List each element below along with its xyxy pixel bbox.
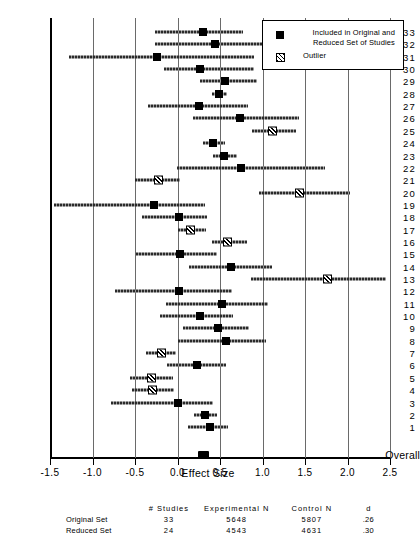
confidence-interval-line — [164, 68, 254, 71]
effect-size-marker — [175, 213, 183, 221]
effect-size-marker — [221, 77, 229, 85]
summary-row-name: Original Set — [60, 514, 142, 525]
row-label-9: 9 — [372, 323, 416, 334]
gridline-1 — [263, 18, 264, 458]
outlier-marker — [148, 386, 157, 395]
effect-size-marker — [206, 423, 214, 431]
row-label-15: 15 — [372, 249, 416, 260]
x-tick-mark-0 — [178, 459, 179, 465]
summary-row-studies: 24 — [142, 525, 197, 536]
effect-size-marker — [196, 65, 204, 73]
row-label-7: 7 — [372, 348, 416, 359]
confidence-interval-line — [177, 166, 326, 169]
legend-marker-included-icon — [276, 31, 284, 39]
row-label-25: 25 — [372, 125, 416, 136]
effect-size-marker — [150, 201, 158, 209]
effect-size-marker — [153, 53, 161, 61]
row-label-17: 17 — [372, 224, 416, 235]
row-label-26: 26 — [372, 113, 416, 124]
row-label-12: 12 — [372, 286, 416, 297]
x-tick-mark--1.5 — [50, 459, 51, 465]
row-label-18: 18 — [372, 212, 416, 223]
summary-header-experimental-n: Experimental N — [196, 503, 277, 514]
gridline-2 — [348, 18, 349, 458]
x-tick-mark-1.5 — [305, 459, 306, 465]
summary-row-control-n: 4631 — [277, 525, 347, 536]
legend: Included in Original and Reduced Set of … — [262, 20, 404, 70]
effect-size-marker — [176, 250, 184, 258]
effect-size-marker — [211, 40, 219, 48]
summary-header-studies: # Studies — [142, 503, 197, 514]
confidence-interval-line — [251, 278, 386, 281]
effect-size-marker — [195, 102, 203, 110]
effect-size-marker — [201, 411, 209, 419]
gridline--0.5 — [135, 18, 136, 458]
row-label-19: 19 — [372, 199, 416, 210]
summary-table-row: Original Set3356485807.26 — [60, 514, 390, 525]
effect-size-marker — [220, 152, 228, 160]
x-tick-mark--1 — [93, 459, 94, 465]
x-tick-mark-0.5 — [220, 459, 221, 465]
outlier-marker — [268, 126, 277, 135]
confidence-interval-line — [193, 117, 299, 120]
confidence-interval-line — [69, 55, 254, 58]
row-label-10: 10 — [372, 311, 416, 322]
effect-size-marker — [175, 287, 183, 295]
effect-size-marker — [222, 337, 230, 345]
effect-size-marker — [209, 139, 217, 147]
effect-size-marker — [237, 164, 245, 172]
summary-header-d: d — [347, 503, 390, 514]
effect-size-marker — [215, 90, 223, 98]
row-label-5: 5 — [372, 372, 416, 383]
summary-table: # Studies Experimental N Control N d Ori… — [60, 503, 390, 536]
row-label-overall: Overall — [360, 449, 420, 461]
summary-row-control-n: 5807 — [277, 514, 347, 525]
summary-header-control-n: Control N — [277, 503, 347, 514]
row-label-4: 4 — [372, 385, 416, 396]
row-label-6: 6 — [372, 360, 416, 371]
row-label-8: 8 — [372, 335, 416, 346]
row-label-3: 3 — [372, 397, 416, 408]
effect-size-marker — [218, 300, 226, 308]
row-label-2: 2 — [372, 409, 416, 420]
summary-header-blank — [60, 503, 142, 514]
gridline--1 — [93, 18, 94, 458]
legend-marker-outlier-icon — [276, 53, 285, 62]
summary-row-experimental-n: 5648 — [196, 514, 277, 525]
summary-row-d: .26 — [347, 514, 390, 525]
legend-label-outlier: Outlier — [303, 51, 326, 61]
overall-effect-marker — [198, 451, 209, 459]
outlier-marker — [295, 188, 304, 197]
row-label-14: 14 — [372, 261, 416, 272]
outlier-marker — [186, 225, 195, 234]
row-label-21: 21 — [372, 175, 416, 186]
summary-table-row: Reduced Set2445434631.30 — [60, 525, 390, 536]
confidence-interval-line — [111, 401, 213, 404]
legend-label-included: Included in Original and Reduced Set of … — [303, 28, 395, 48]
outlier-marker — [323, 275, 332, 284]
confidence-interval-line — [259, 191, 350, 194]
outlier-marker — [223, 237, 232, 246]
outlier-marker — [157, 349, 166, 358]
gridline-1.5 — [305, 18, 306, 458]
row-label-27: 27 — [372, 101, 416, 112]
effect-size-marker — [199, 28, 207, 36]
row-label-1: 1 — [372, 422, 416, 433]
gridline-0 — [178, 18, 179, 458]
effect-size-marker — [196, 312, 204, 320]
summary-header-row: # Studies Experimental N Control N d — [60, 503, 390, 514]
summary-row-studies: 33 — [142, 514, 197, 525]
summary-row-experimental-n: 4543 — [196, 525, 277, 536]
row-label-11: 11 — [372, 298, 416, 309]
effect-size-marker — [174, 399, 182, 407]
effect-size-marker — [193, 361, 201, 369]
row-label-16: 16 — [372, 236, 416, 247]
x-tick-mark-2 — [348, 459, 349, 465]
x-tick-mark-1 — [263, 459, 264, 465]
effect-size-marker — [236, 114, 244, 122]
effect-size-marker — [227, 263, 235, 271]
row-label-13: 13 — [372, 274, 416, 285]
row-label-28: 28 — [372, 88, 416, 99]
row-label-22: 22 — [372, 162, 416, 173]
